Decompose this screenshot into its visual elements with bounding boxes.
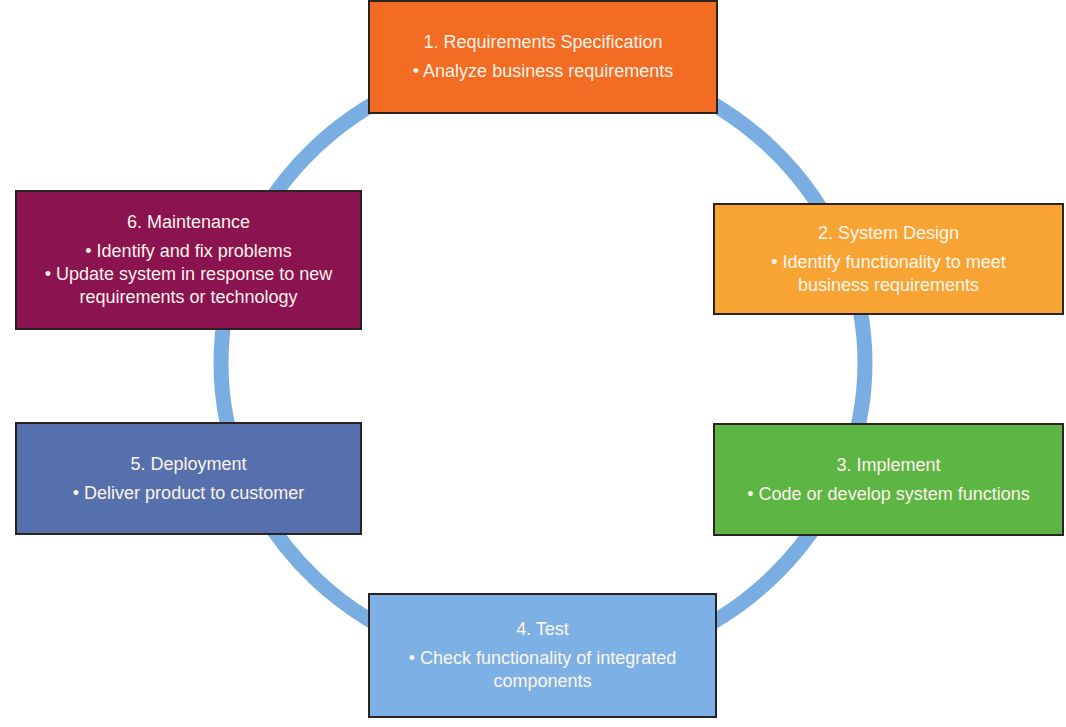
step-maintenance: 6. Maintenance • Identify and fix proble… bbox=[15, 190, 362, 330]
step-title: 6. Maintenance bbox=[127, 211, 250, 234]
step-requirements-specification: 1. Requirements Specification • Analyze … bbox=[368, 0, 718, 114]
step-bullet: • Check functionality of integrated comp… bbox=[388, 647, 698, 693]
step-test: 4. Test • Check functionality of integra… bbox=[368, 593, 717, 718]
step-bullet: • Update system in response to new requi… bbox=[23, 263, 354, 309]
step-title: 1. Requirements Specification bbox=[423, 31, 662, 54]
step-deployment: 5. Deployment • Deliver product to custo… bbox=[15, 422, 362, 535]
step-system-design: 2. System Design • Identify functionalit… bbox=[713, 203, 1064, 315]
step-title: 4. Test bbox=[516, 618, 569, 641]
step-bullet: • Identify and fix problems bbox=[85, 240, 291, 263]
step-title: 2. System Design bbox=[818, 222, 959, 245]
step-bullet: • Identify functionality to meet busines… bbox=[749, 251, 1029, 297]
step-bullet: • Code or develop system functions bbox=[747, 483, 1029, 506]
step-bullet: • Deliver product to customer bbox=[73, 482, 304, 505]
step-title: 3. Implement bbox=[836, 454, 940, 477]
step-implement: 3. Implement • Code or develop system fu… bbox=[713, 423, 1064, 536]
step-title: 5. Deployment bbox=[130, 453, 246, 476]
step-bullet: • Analyze business requirements bbox=[413, 60, 673, 83]
